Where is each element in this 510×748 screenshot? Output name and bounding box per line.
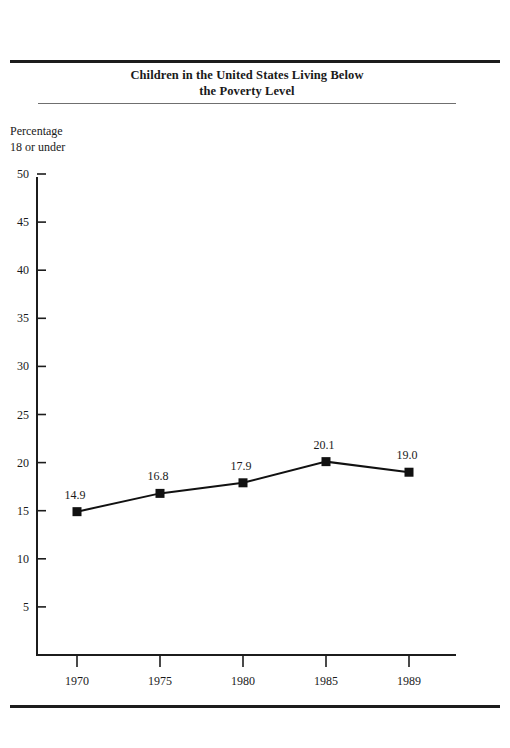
chart-axes <box>36 177 456 655</box>
y-tick-label: 5 <box>23 600 29 614</box>
x-axis-ticks: 19701975198019851989 <box>65 655 421 688</box>
y-tick-label: 40 <box>17 263 29 277</box>
y-tick-label: 50 <box>17 167 29 181</box>
x-tick-label: 1970 <box>65 674 89 688</box>
bottom-divider-rule <box>10 705 500 708</box>
x-tick-label: 1975 <box>148 674 172 688</box>
data-point-marker <box>156 489 165 498</box>
y-tick-label: 15 <box>17 504 29 518</box>
y-tick-label: 45 <box>17 215 29 229</box>
data-point-label: 19.0 <box>397 448 418 462</box>
y-tick-label: 25 <box>17 408 29 422</box>
y-tick-label: 35 <box>17 311 29 325</box>
x-tick-label: 1985 <box>314 674 338 688</box>
x-tick-label: 1980 <box>231 674 255 688</box>
data-point-marker <box>73 507 82 516</box>
data-point-label: 20.1 <box>314 438 335 452</box>
x-tick-label: 1989 <box>397 674 421 688</box>
data-point-marker <box>322 457 331 466</box>
line-chart: 5101520253035404550 19701975198019851989… <box>0 0 510 748</box>
y-tick-label: 30 <box>17 359 29 373</box>
data-point-marker <box>239 478 248 487</box>
data-point-labels: 14.916.817.920.119.0 <box>65 438 418 502</box>
y-tick-label: 10 <box>17 552 29 566</box>
y-tick-label: 20 <box>17 456 29 470</box>
data-point-label: 16.8 <box>148 469 169 483</box>
data-point-label: 14.9 <box>65 488 86 502</box>
figure-container: Children in the United States Living Bel… <box>0 0 510 748</box>
data-point-marker <box>405 468 414 477</box>
y-axis-ticks: 5101520253035404550 <box>17 167 46 614</box>
data-point-label: 17.9 <box>231 459 252 473</box>
